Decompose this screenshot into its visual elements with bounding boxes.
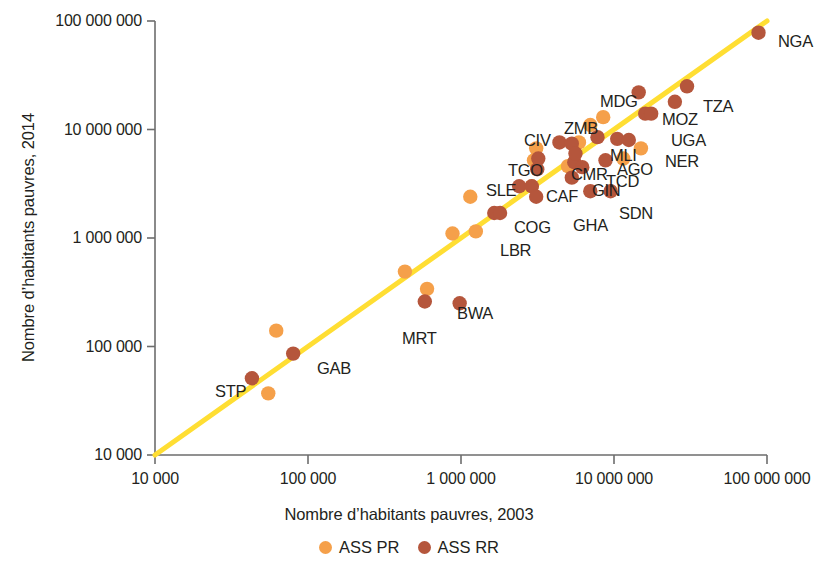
- scatter-chart-figure: Nombre d’habitants pauvres, 2014 Nombre …: [0, 0, 818, 567]
- data-point[interactable]: [463, 190, 477, 204]
- legend-label: ASS PR: [339, 538, 400, 557]
- x-axis-tick-label: 10 000: [131, 470, 179, 488]
- data-point[interactable]: [596, 110, 610, 124]
- country-code-label-civ: CIV: [524, 131, 551, 150]
- x-axis-tick-label: 100 000 000: [724, 470, 811, 488]
- data-point[interactable]: [644, 106, 658, 120]
- y-axis-tick-label: 100 000 000: [55, 12, 142, 30]
- series-ass-pr: [261, 110, 648, 401]
- country-code-label-ner: NER: [665, 152, 699, 171]
- data-point[interactable]: [568, 146, 582, 160]
- data-point[interactable]: [418, 294, 432, 308]
- country-code-label-bwa: BWA: [457, 304, 493, 323]
- y-axis-tick-label: 10 000 000: [64, 121, 142, 139]
- data-point[interactable]: [493, 206, 507, 220]
- data-point[interactable]: [680, 79, 694, 93]
- country-code-label-sle: SLE: [486, 181, 516, 200]
- identity-reference-line: [155, 21, 767, 455]
- country-code-label-nga: NGA: [778, 32, 813, 51]
- data-point[interactable]: [751, 26, 765, 40]
- data-point[interactable]: [529, 190, 543, 204]
- country-code-label-lbr: LBR: [500, 241, 531, 260]
- legend-color-dot-icon: [418, 541, 431, 554]
- data-point[interactable]: [398, 264, 412, 278]
- country-code-label-moz: MOZ: [662, 110, 698, 129]
- country-code-label-caf: CAF: [546, 187, 578, 206]
- plot-area: [0, 0, 818, 567]
- country-code-label-zmb: ZMB: [564, 119, 598, 138]
- country-code-label-gha: GHA: [573, 216, 608, 235]
- country-code-label-mdg: MDG: [600, 92, 638, 111]
- data-point[interactable]: [261, 386, 275, 400]
- y-axis-tick-label: 10 000: [94, 446, 142, 464]
- data-point[interactable]: [245, 371, 259, 385]
- data-point[interactable]: [269, 323, 283, 337]
- country-code-label-tza: TZA: [703, 97, 733, 116]
- chart-legend: ASS PRASS RR: [0, 538, 818, 557]
- legend-item-ass-pr[interactable]: ASS PR: [319, 538, 400, 557]
- x-axis-tick-label: 1 000 000: [426, 470, 495, 488]
- country-code-label-mrt: MRT: [402, 329, 437, 348]
- x-axis-tick-label: 10 000 000: [575, 470, 653, 488]
- data-point[interactable]: [668, 95, 682, 109]
- y-axis-tick-label: 100 000: [86, 338, 142, 356]
- data-point[interactable]: [445, 226, 459, 240]
- country-code-label-sdn: SDN: [619, 204, 653, 223]
- x-axis-tick-label: 100 000: [280, 470, 336, 488]
- country-code-label-tgo: TGO: [508, 161, 543, 180]
- data-point[interactable]: [420, 282, 434, 296]
- y-axis-tick-label: 1 000 000: [73, 229, 142, 247]
- data-point[interactable]: [469, 224, 483, 238]
- country-code-label-uga: UGA: [671, 131, 706, 150]
- country-code-label-gin: GIN: [592, 181, 620, 200]
- legend-color-dot-icon: [319, 541, 332, 554]
- country-code-label-stp: STP: [215, 382, 246, 401]
- country-code-label-gab: GAB: [317, 359, 351, 378]
- country-code-label-cog: COG: [514, 218, 551, 237]
- data-point[interactable]: [286, 346, 300, 360]
- legend-label: ASS RR: [438, 538, 499, 557]
- legend-item-ass-rr[interactable]: ASS RR: [418, 538, 499, 557]
